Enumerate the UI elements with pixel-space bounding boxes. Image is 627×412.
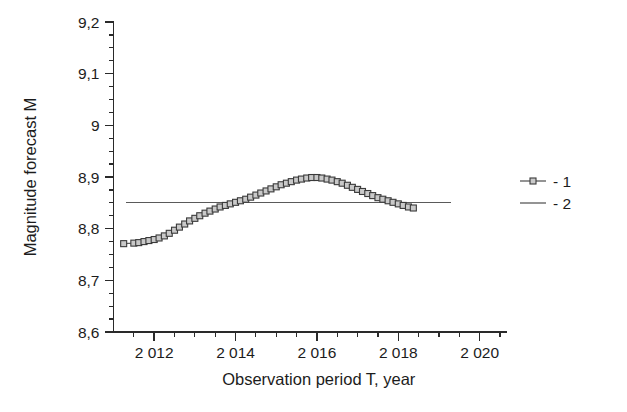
y-axis-tick-label: 9,2: [78, 14, 100, 31]
y-axis-tick-label: 9,1: [78, 65, 100, 82]
legend-label-2: - 2: [553, 195, 571, 212]
y-axis-title: Magnitude forecast M: [21, 98, 39, 257]
x-axis-tick-label: 2 012: [135, 344, 174, 361]
legend-label-1: - 1: [553, 173, 571, 190]
x-axis-title: Observation period T, year: [222, 370, 416, 388]
x-axis-tick-label: 2 018: [379, 344, 418, 361]
legend-swatch-marker-1: [530, 178, 536, 184]
x-axis-tick-label: 2 016: [298, 344, 337, 361]
series-1-data-point: [121, 241, 127, 247]
chart-figure: 8,68,78,88,999,19,22 0122 0142 0162 0182…: [0, 0, 627, 412]
y-axis-tick-label: 8,7: [78, 272, 100, 289]
x-axis-tick-label: 2 014: [216, 344, 255, 361]
y-axis-tick-label: 8,9: [78, 169, 100, 186]
y-axis-tick-label: 8,8: [78, 220, 100, 237]
y-axis-tick-label: 9: [91, 117, 100, 134]
y-axis-tick-label: 8,6: [78, 324, 100, 341]
series-1-data-point: [410, 205, 416, 211]
magnitude-forecast-chart: 8,68,78,88,999,19,22 0122 0142 0162 0182…: [0, 0, 627, 412]
x-axis-tick-label: 2 020: [460, 344, 499, 361]
